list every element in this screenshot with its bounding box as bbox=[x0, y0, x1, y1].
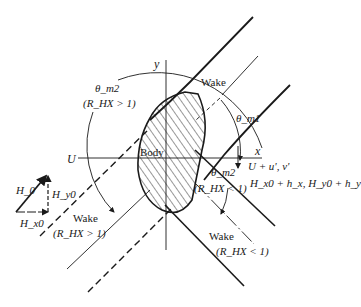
theta-m1-label: θ_m1 bbox=[236, 113, 260, 124]
condition-lt-lower-right: (R_HX < 1) bbox=[216, 246, 269, 257]
free-stream-label: U bbox=[67, 153, 76, 165]
theta-m2-label-upper: θ_m2 bbox=[95, 83, 119, 94]
perturbed-field-label: H_x0 + h_x, H_y0 + h_y bbox=[250, 178, 361, 189]
wake-boundary-lower-left-inner bbox=[88, 208, 172, 292]
field-h0-label: H_0 bbox=[16, 185, 35, 196]
x-axis-label: x bbox=[255, 145, 260, 157]
field-hx0-label: H_x0 bbox=[20, 218, 44, 229]
condition-gt-lower-left: (R_HX > 1) bbox=[53, 228, 106, 239]
y-axis-label: y bbox=[154, 58, 159, 70]
theta-m2-label-lower: θ_m2 bbox=[211, 167, 235, 178]
angle-arc-left bbox=[87, 112, 114, 212]
wake-label-lower-left: Wake bbox=[73, 213, 98, 224]
wake-centerline-upper bbox=[222, 56, 258, 95]
body-label: Body bbox=[140, 147, 164, 158]
condition-lt-right: (R_HX < 1) bbox=[194, 183, 247, 194]
field-hy0-label: H_y0 bbox=[52, 189, 76, 200]
perturbed-flow-label: U + u', v' bbox=[248, 161, 289, 172]
wake-label-upper: Wake bbox=[201, 77, 226, 88]
wake-label-lower-right: Wake bbox=[209, 231, 234, 242]
condition-gt-upper: (R_HX > 1) bbox=[83, 98, 136, 109]
